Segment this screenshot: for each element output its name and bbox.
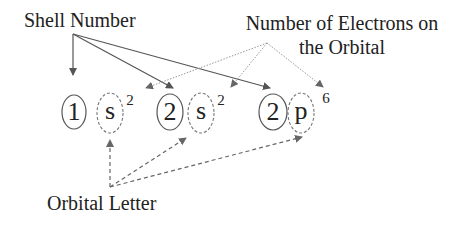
shell-number-1: 1 (62, 99, 86, 125)
electron-count-2s: 2 (215, 93, 227, 108)
electron-count-1s: 2 (124, 93, 136, 108)
arrow-shell-to-2s (73, 34, 173, 88)
electron-count-label: Number of Electrons on the Orbital (242, 11, 442, 59)
orbital-letter-2p: p (289, 98, 313, 124)
arrow-letter-to-2p (110, 137, 302, 187)
arrow-shell-to-2p (73, 34, 270, 88)
orbital-letter-2s: s (189, 98, 213, 124)
shell-number-label: Shell Number (24, 10, 136, 30)
shell-number-arrows (73, 34, 270, 88)
orbital-letter-1s: s (98, 98, 122, 124)
shell-number-2s: 2 (158, 99, 182, 125)
electron-count-2p: 6 (320, 91, 332, 106)
electron-count-label-line2: the Orbital (242, 35, 442, 59)
arrow-letter-to-2s (110, 138, 186, 187)
electron-count-label-line1: Number of Electrons on (242, 11, 442, 35)
orbital-letter-arrows (110, 137, 302, 187)
orbital-letter-label: Orbital Letter (47, 193, 156, 213)
shell-number-2p: 2 (261, 99, 285, 125)
